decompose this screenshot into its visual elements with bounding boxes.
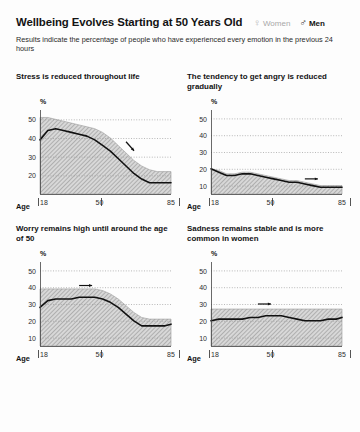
legend-item-women: ♀ Women	[253, 18, 290, 28]
x-tick-mark	[38, 350, 39, 358]
x-axis-stress: Age 185085	[16, 199, 175, 210]
x-ticks-anger: 185085	[209, 199, 346, 209]
plot-stress: 50403020	[16, 106, 175, 198]
y-tick-label: 20	[28, 318, 36, 325]
y-tick-label: 20	[199, 166, 207, 173]
x-tick-mark	[350, 198, 351, 206]
x-tick-mark	[209, 198, 210, 206]
x-tick-label: 50	[96, 351, 104, 358]
chart-panel-worry: Worry remains high until around the age …	[16, 224, 175, 362]
legend-label-women: Women	[263, 19, 290, 28]
y-tick-label: 50	[199, 268, 207, 275]
x-tick-mark	[350, 350, 351, 358]
x-tick-label: 50	[267, 199, 275, 206]
y-tick-label: 10	[199, 183, 207, 190]
x-tick-label: 18	[40, 351, 48, 358]
chart-title-anger: The tendency to get angry is reduced gra…	[187, 72, 346, 92]
chart-panel-anger: The tendency to get angry is reduced gra…	[187, 72, 346, 210]
y-tick-label: 50	[28, 268, 36, 275]
x-ticks-worry: 185085	[38, 351, 175, 361]
chart-row-top: Stress is reduced throughout life % 5040…	[16, 72, 346, 210]
x-tick-label: 18	[211, 351, 219, 358]
x-axis-anger: Age 185085	[187, 199, 346, 210]
chart-svg-anger: 5040302010	[187, 106, 346, 198]
women-band-sadness	[211, 309, 342, 346]
chart-svg-stress: 50403020	[16, 106, 175, 198]
x-tick-mark	[179, 198, 180, 206]
chart-grid: Stress is reduced throughout life % 5040…	[16, 72, 346, 362]
y-tick-label: 20	[199, 318, 207, 325]
y-tick-label: 30	[28, 154, 36, 161]
chart-title-stress: Stress is reduced throughout life	[16, 72, 175, 92]
y-tick-label: 10	[28, 335, 36, 342]
y-unit-stress: %	[40, 98, 175, 105]
chart-svg-worry: 5040302010	[16, 258, 175, 350]
x-ticks-sadness: 185085	[209, 351, 346, 361]
chart-row-bottom: Worry remains high until around the age …	[16, 224, 346, 362]
y-tick-label: 30	[28, 301, 36, 308]
y-tick-label: 50	[28, 116, 36, 123]
mars-icon: ♂	[299, 18, 307, 28]
y-tick-label: 10	[199, 335, 207, 342]
annotation-arrowhead-sadness	[268, 303, 271, 306]
x-axis-label-worry: Age	[16, 354, 38, 363]
chart-panel-stress: Stress is reduced throughout life % 5040…	[16, 72, 175, 210]
x-tick-mark	[179, 350, 180, 358]
y-unit-sadness: %	[211, 250, 346, 257]
plot-sadness: 5040302010	[187, 258, 346, 350]
y-tick-label: 50	[199, 116, 207, 123]
x-tick-label: 18	[211, 199, 219, 206]
subtitle: Results indicate the percentage of peopl…	[16, 35, 346, 54]
x-tick-label: 85	[338, 199, 346, 206]
y-tick-label: 40	[28, 135, 36, 142]
x-axis-worry: Age 185085	[16, 351, 175, 362]
x-axis-sadness: Age 185085	[187, 351, 346, 362]
legend-label-men: Men	[309, 19, 325, 28]
y-unit-anger: %	[211, 98, 346, 105]
annotation-arrowhead-anger	[315, 177, 318, 180]
page-title: Wellbeing Evolves Starting at 50 Years O…	[16, 16, 242, 28]
plot-anger: 5040302010	[187, 106, 346, 198]
chart-panel-sadness: Sadness remains stable and is more commo…	[187, 224, 346, 362]
plot-worry: 5040302010	[16, 258, 175, 350]
infographic-page: Wellbeing Evolves Starting at 50 Years O…	[0, 0, 360, 432]
y-unit-worry: %	[40, 250, 175, 257]
title-row: Wellbeing Evolves Starting at 50 Years O…	[16, 16, 346, 28]
y-tick-label: 30	[199, 301, 207, 308]
x-tick-label: 50	[96, 199, 104, 206]
legend-item-men: ♂ Men	[299, 18, 325, 28]
x-tick-mark	[38, 198, 39, 206]
chart-svg-sadness: 5040302010	[187, 258, 346, 350]
chart-title-worry: Worry remains high until around the age …	[16, 224, 175, 244]
x-ticks-stress: 185085	[38, 199, 175, 209]
y-tick-label: 40	[199, 284, 207, 291]
header: Wellbeing Evolves Starting at 50 Years O…	[16, 16, 346, 54]
y-tick-label: 40	[28, 284, 36, 291]
x-axis-label-stress: Age	[16, 202, 38, 211]
annotation-arrowhead-worry	[89, 284, 92, 287]
women-band-anger	[211, 169, 342, 194]
x-tick-label: 85	[167, 199, 175, 206]
y-tick-label: 40	[199, 132, 207, 139]
y-tick-label: 30	[199, 149, 207, 156]
x-axis-label-sadness: Age	[187, 354, 209, 363]
x-tick-label: 50	[267, 351, 275, 358]
x-axis-label-anger: Age	[187, 202, 209, 211]
venus-icon: ♀	[253, 18, 261, 28]
x-tick-label: 18	[40, 199, 48, 206]
x-tick-mark	[209, 350, 210, 358]
women-band-worry	[40, 289, 171, 346]
x-tick-label: 85	[167, 351, 175, 358]
y-tick-label: 20	[28, 172, 36, 179]
legend: ♀ Women ♂ Men	[253, 18, 324, 28]
chart-title-sadness: Sadness remains stable and is more commo…	[187, 224, 346, 244]
x-tick-label: 85	[338, 351, 346, 358]
